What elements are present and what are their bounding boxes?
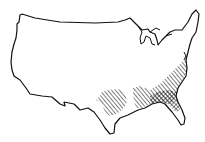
region-texas-louisiana-hatch: [96, 89, 127, 116]
hatch-regions: [96, 60, 187, 116]
us-outline-map: [0, 0, 205, 142]
us-border-outline: [11, 10, 199, 134]
